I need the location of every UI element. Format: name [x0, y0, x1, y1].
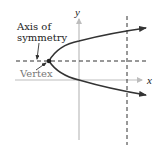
- vertex-label: Vertex: [19, 68, 53, 79]
- vertex-point: [47, 59, 52, 64]
- y-axis-label: y: [74, 6, 80, 18]
- x-axis-label: x: [146, 74, 152, 86]
- axis-of-symmetry-label-line2: symmetry: [17, 32, 67, 43]
- axis-label-pointer: [37, 43, 39, 59]
- parabola-lower-branch: [49, 61, 146, 95]
- axis-of-symmetry-label-line1: Axis of: [16, 21, 52, 32]
- parabola-diagram: y x Axis of symmetry Vertex: [0, 0, 165, 155]
